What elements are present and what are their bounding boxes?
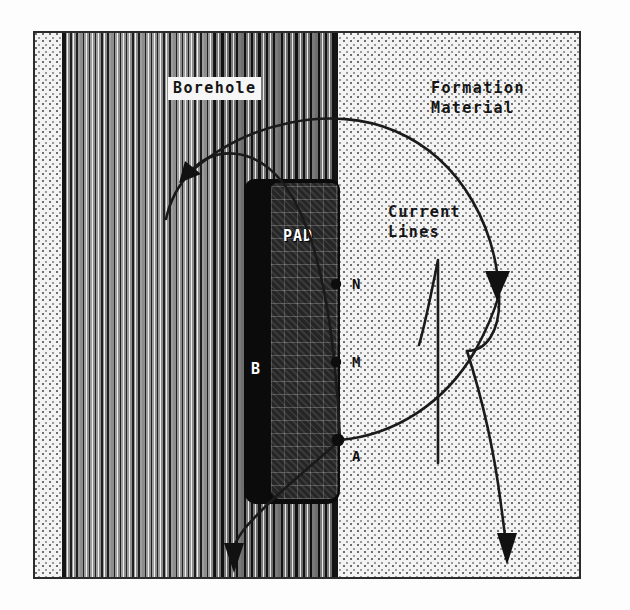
figure-page: PAD B [0, 0, 630, 610]
pad-back-electrode-label-b: B [251, 360, 260, 378]
electrode-label-n: N [352, 276, 360, 292]
borehole-left-wall-line [62, 33, 66, 577]
figure-frame: PAD B [33, 31, 581, 579]
electrode-label-a: A [352, 448, 360, 464]
formation-material-label-line1: Formation [431, 79, 525, 98]
formation-material-label-line2: Material [431, 99, 514, 118]
current-lines-label-line2: Lines [388, 223, 440, 242]
electrode-label-m: M [352, 354, 360, 370]
pad-label: PAD [283, 227, 313, 245]
current-lines-label-line1: Current [388, 203, 461, 222]
borehole-stripes [64, 33, 214, 577]
borehole-label: Borehole [168, 77, 261, 100]
